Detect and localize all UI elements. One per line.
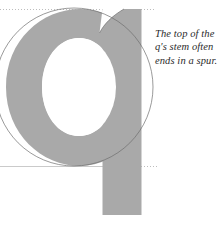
annotation-line-1: The top of the <box>155 27 217 40</box>
annotation-line-3: ends in a spur. <box>155 54 217 67</box>
annotation-line-2: q's stem often <box>155 40 217 53</box>
typography-diagram-figure: The top of the q's stem often ends in a … <box>0 0 217 226</box>
annotation-callout-text: The top of the q's stem often ends in a … <box>155 27 217 67</box>
counter-shape <box>42 38 116 136</box>
